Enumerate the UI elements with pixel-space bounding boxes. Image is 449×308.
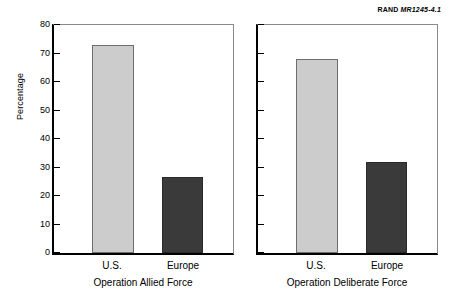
y-axis-tick: 0 bbox=[54, 252, 60, 253]
y-axis-tick-label: 60 bbox=[28, 76, 50, 86]
y-axis-tick bbox=[258, 81, 264, 82]
y-axis-title: Percentage bbox=[15, 106, 25, 120]
y-axis-tick bbox=[258, 252, 264, 253]
y-axis-tick bbox=[258, 110, 264, 111]
y-axis-tick-label: 50 bbox=[28, 105, 50, 115]
bar-chart-figure: Percentage 01020304050607080 U.S.Europe … bbox=[0, 20, 449, 308]
plot-area: 01020304050607080 bbox=[54, 25, 233, 253]
plot-area bbox=[258, 25, 437, 253]
y-axis-tick-label: 80 bbox=[28, 19, 50, 29]
y-axis-tick-label: 0 bbox=[28, 247, 50, 257]
rand-logo-text: RAND bbox=[377, 6, 398, 13]
plot-frame bbox=[256, 24, 438, 255]
x-axis-category-label: Europe bbox=[167, 260, 199, 271]
y-axis-tick bbox=[258, 195, 264, 196]
x-axis-category-label: U.S. bbox=[306, 260, 325, 271]
y-axis-tick: 50 bbox=[54, 110, 60, 111]
y-axis-tick bbox=[258, 24, 264, 25]
bar-europe[interactable] bbox=[366, 162, 407, 253]
y-axis-tick: 70 bbox=[54, 53, 60, 54]
panel-caption: Operation Deliberate Force bbox=[256, 277, 438, 288]
y-axis-tick bbox=[258, 167, 264, 168]
y-axis-tick-label: 70 bbox=[28, 48, 50, 58]
y-axis-tick-label: 20 bbox=[28, 190, 50, 200]
bar-us[interactable] bbox=[92, 45, 133, 253]
y-axis-tick: 10 bbox=[54, 224, 60, 225]
bar-europe[interactable] bbox=[162, 177, 203, 253]
y-axis-tick: 80 bbox=[54, 24, 60, 25]
category-label-row: U.S.Europe bbox=[256, 260, 438, 274]
y-axis-tick-label: 10 bbox=[28, 219, 50, 229]
x-axis-category-label: U.S. bbox=[102, 260, 121, 271]
y-axis-tick: 30 bbox=[54, 167, 60, 168]
y-axis-tick bbox=[258, 138, 264, 139]
x-axis-category-label: Europe bbox=[371, 260, 403, 271]
y-axis-tick: 20 bbox=[54, 195, 60, 196]
bar-us[interactable] bbox=[296, 59, 337, 253]
figure-document-id: MR1245-4.1 bbox=[400, 6, 441, 13]
plot-frame: 01020304050607080 bbox=[52, 24, 234, 255]
figure-credit: RANDMR1245-4.1 bbox=[377, 6, 441, 13]
y-axis-tick-label: 40 bbox=[28, 133, 50, 143]
category-label-row: U.S.Europe bbox=[52, 260, 234, 274]
panel-caption: Operation Allied Force bbox=[52, 277, 234, 288]
y-axis-tick-label: 30 bbox=[28, 162, 50, 172]
y-axis-tick: 60 bbox=[54, 81, 60, 82]
y-axis-tick bbox=[258, 53, 264, 54]
y-axis-tick bbox=[258, 224, 264, 225]
y-axis-tick: 40 bbox=[54, 138, 60, 139]
